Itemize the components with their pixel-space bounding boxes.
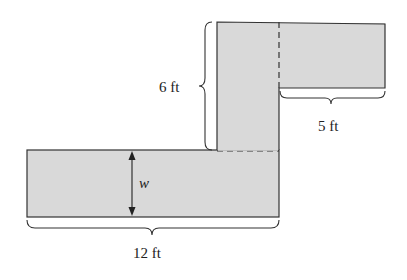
bottom-width-label: 12 ft — [133, 245, 162, 261]
height-label: 6 ft — [159, 79, 180, 95]
height-brace — [199, 22, 212, 150]
top-width-brace — [280, 91, 385, 104]
bottom-width-brace — [27, 220, 279, 235]
width-variable-label: w — [139, 175, 149, 191]
top-right-rectangle — [279, 23, 385, 88]
bottom-rectangle — [27, 150, 279, 217]
top-width-label: 5 ft — [318, 118, 339, 134]
composite-shape-diagram: 6 ft 5 ft 12 ft w — [0, 0, 407, 280]
vertical-column — [217, 22, 279, 150]
